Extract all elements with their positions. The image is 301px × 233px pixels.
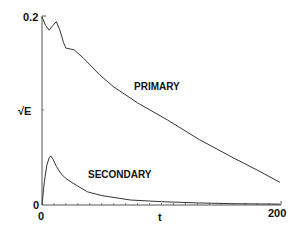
x-tick-label-end: 200 <box>268 208 286 219</box>
chart-plot-area <box>0 0 301 233</box>
x-tick-label-zero: 0 <box>38 211 44 222</box>
primary-curve <box>42 17 280 182</box>
y-tick-label-top: 0.2 <box>23 12 38 23</box>
y-axis-label: √E <box>18 106 31 117</box>
secondary-annotation: SECONDARY <box>88 170 152 180</box>
primary-annotation: PRIMARY <box>134 82 180 92</box>
x-axis-label: t <box>158 212 162 223</box>
